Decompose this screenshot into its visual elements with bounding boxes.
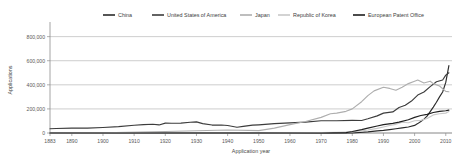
series-line-united-states-of-america (50, 73, 449, 129)
chart-canvas: ChinaUnited States of AmericaJapanRepubl… (0, 0, 457, 164)
legend-label-4: European Patent Office (368, 12, 424, 18)
x-tick-label-12: 2000 (409, 138, 420, 144)
grid-lines (50, 37, 452, 133)
x-tick-label-3: 1910 (128, 138, 139, 144)
y-tick-label-4: 800,000 (27, 34, 46, 40)
x-tick-label-2: 1900 (97, 138, 108, 144)
legend-label-2: Japan (255, 12, 270, 18)
x-tick-label-9: 1970 (315, 138, 326, 144)
x-tick-label-6: 1940 (222, 138, 233, 144)
x-tick-label-4: 1920 (160, 138, 171, 144)
y-tick-label-2: 400,000 (27, 82, 46, 88)
series-line-china (50, 66, 449, 133)
y-axis: 0200,000400,000600,000800,000 (27, 22, 50, 136)
x-axis: 1883189019001910192019301940195019601970… (44, 133, 452, 144)
legend: ChinaUnited States of AmericaJapanRepubl… (103, 12, 424, 18)
y-tick-label-1: 200,000 (27, 106, 46, 112)
legend-label-3: Republic of Korea (293, 12, 336, 18)
x-tick-label-10: 1980 (347, 138, 358, 144)
x-tick-label-8: 1960 (284, 138, 295, 144)
y-tick-label-0: 0 (42, 130, 45, 136)
x-tick-label-11: 1990 (378, 138, 389, 144)
x-tick-label-5: 1930 (191, 138, 202, 144)
x-tick-label-13: 2010 (440, 138, 451, 144)
y-tick-label-3: 600,000 (27, 58, 46, 64)
x-axis-title: Application year (232, 148, 271, 154)
legend-label-1: United States of America (167, 12, 226, 18)
legend-label-0: China (118, 12, 132, 18)
series-layer (50, 66, 449, 133)
x-tick-label-1: 1890 (66, 138, 77, 144)
patent-applications-line-chart: ChinaUnited States of AmericaJapanRepubl… (0, 0, 457, 164)
y-axis-title: Applications (7, 65, 13, 94)
x-tick-label-0: 1883 (44, 138, 55, 144)
x-tick-label-7: 1950 (253, 138, 264, 144)
